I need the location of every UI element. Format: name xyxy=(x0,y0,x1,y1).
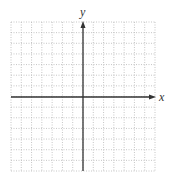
coordinate-plane xyxy=(0,0,175,180)
x-axis-label: x xyxy=(159,91,164,103)
y-axis-label: y xyxy=(80,6,85,18)
